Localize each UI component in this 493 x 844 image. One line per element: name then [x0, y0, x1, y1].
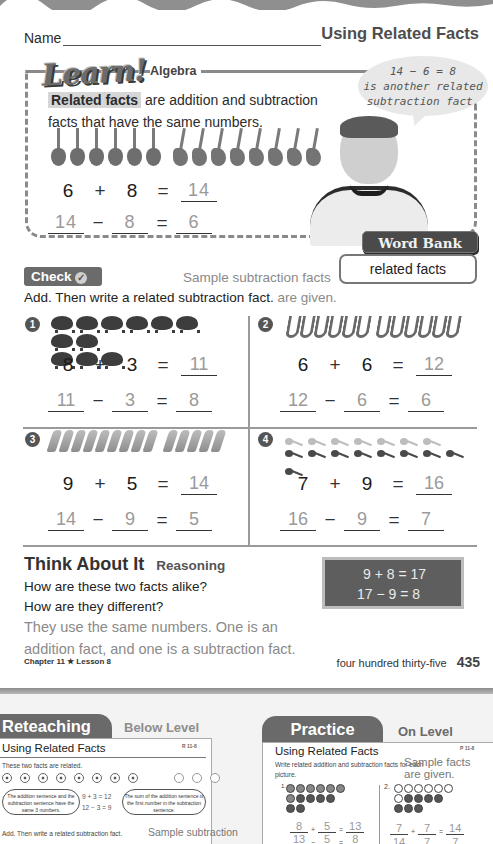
answer-blank[interactable]: 8: [290, 820, 308, 833]
equals-sign: =: [145, 354, 181, 376]
spoon-icon: [377, 450, 396, 458]
minus-sign: −: [84, 212, 112, 234]
answer-blank[interactable]: 6: [408, 390, 444, 412]
cloud-note-left: The addition sentence and the subtractio…: [2, 789, 80, 815]
guitar-icon: [88, 128, 105, 168]
answer-blank[interactable]: 8: [346, 833, 364, 844]
practice-sample-note: Sample facts are given.: [404, 756, 470, 780]
saxophone-icon: [355, 316, 372, 338]
balloon-icon: [128, 773, 138, 783]
answer-blank[interactable]: 7: [418, 822, 436, 835]
answer-blank[interactable]: 13: [346, 820, 364, 833]
answer-blank[interactable]: 14: [181, 473, 217, 495]
answer-blank[interactable]: 7: [418, 836, 436, 844]
learn-addition-equation: 6 + 8 = 14: [55, 180, 217, 202]
term-highlight: Related facts: [48, 92, 141, 108]
counters-picture-1: [286, 784, 352, 814]
spoon-icon: [354, 450, 373, 458]
addend-b: 3: [119, 354, 145, 376]
equals-sign: =: [339, 826, 343, 833]
problem-number-1: 1: [25, 317, 40, 332]
electric-guitar-icon: [191, 128, 208, 168]
balloon-icon: [2, 773, 12, 783]
reteaching-level: Below Level: [124, 720, 199, 735]
answer-blank[interactable]: 7: [446, 836, 464, 844]
paintbrushes-picture: [50, 430, 245, 456]
answer-blank[interactable]: 3: [112, 390, 148, 412]
answer-blank[interactable]: 7: [390, 822, 408, 835]
addend-a: 9: [55, 473, 81, 495]
practice-tab: Practice: [262, 716, 383, 742]
answer-blank[interactable]: 6: [176, 212, 212, 234]
answer-blank[interactable]: 14: [181, 180, 217, 202]
answer-blank[interactable]: 7: [408, 509, 444, 531]
addend-a: 7: [290, 473, 316, 495]
problem-3-subtraction: 14 − 9 = 5: [48, 509, 212, 531]
guitar-icon: [145, 128, 162, 168]
pig-icon: [76, 316, 98, 330]
answer-blank[interactable]: 12: [416, 354, 452, 376]
guitar-icon: [126, 128, 143, 168]
guitar-icon: [50, 128, 67, 168]
addend-a: 8: [55, 354, 81, 376]
answer-blank[interactable]: 9: [112, 509, 148, 531]
reteaching-sample-note: Sample subtraction: [148, 826, 238, 838]
practice-2-addition: 7 + 7 = 14: [390, 822, 464, 835]
balloon-icon: [192, 773, 202, 783]
problem-2-subtraction: 12 − 6 = 6: [280, 390, 444, 412]
word-bank-term: related facts: [339, 254, 477, 284]
answer-blank[interactable]: 13: [290, 833, 308, 844]
answer-blank[interactable]: 5: [176, 509, 212, 531]
addend-b: 5: [119, 473, 145, 495]
answer-blank[interactable]: 14: [48, 212, 84, 234]
page-footer: four hundred thirty-five435: [337, 654, 480, 670]
lesson-title: Using Related Facts: [321, 24, 479, 43]
think-question-1: How are these two facts alike?: [24, 579, 207, 594]
cloud-note-right: The sum of the addition sentence is the …: [122, 789, 206, 815]
checkmark-icon: ✓: [75, 272, 87, 284]
answer-blank[interactable]: 5: [318, 833, 336, 844]
balloon-icon: [174, 773, 184, 783]
guitar-icon: [107, 128, 124, 168]
answer-blank[interactable]: 8: [112, 212, 148, 234]
practice-2-subtraction: 14 − 7 = 7: [390, 836, 464, 844]
pig-icon: [101, 316, 123, 330]
equals-sign: =: [145, 473, 181, 495]
answer-blank[interactable]: 9: [344, 509, 380, 531]
check-instructions: Add. Then write a related subtraction fa…: [24, 290, 337, 305]
check-text: Check: [31, 269, 72, 284]
problem-number-4: 4: [258, 432, 273, 447]
answer-blank[interactable]: 11: [181, 354, 217, 376]
electric-guitar-icon: [229, 128, 246, 168]
problem-1-subtraction: 11 − 3 = 8: [48, 390, 212, 412]
answer-blank[interactable]: 16: [416, 473, 452, 495]
answer-blank[interactable]: 14: [446, 822, 464, 835]
pig-icon: [76, 334, 98, 348]
answer-blank[interactable]: 5: [318, 820, 336, 833]
name-line[interactable]: [63, 32, 321, 46]
practice-code: P 11-8: [460, 745, 474, 751]
think-question-2: How are they different?: [24, 599, 163, 614]
answer-blank[interactable]: 16: [280, 509, 316, 531]
plus-sign: +: [81, 180, 119, 202]
name-field[interactable]: Name: [24, 30, 321, 46]
practice-problem-2-number: 2.: [384, 783, 390, 790]
check-label: Check✓: [24, 267, 102, 286]
answer-blank[interactable]: 12: [280, 390, 316, 412]
pig-icon: [51, 334, 73, 348]
answer-blank[interactable]: 14: [390, 836, 408, 844]
answer-blank[interactable]: 11: [48, 390, 84, 412]
spoon-icon: [446, 450, 465, 458]
minus-sign: −: [84, 390, 112, 412]
practice-level: On Level: [398, 724, 453, 739]
grid-divider-bottom: [23, 545, 477, 547]
answer-blank[interactable]: 14: [48, 509, 84, 531]
chalkboard: 9 + 8 = 17 17 − 9 = 8: [322, 557, 464, 609]
answer-blank[interactable]: 8: [176, 390, 212, 412]
pig-icon: [176, 316, 198, 330]
page-number: 435: [457, 654, 480, 670]
equals-sign: =: [380, 473, 416, 495]
spoon-icon: [308, 450, 327, 458]
instruction-text: Add. Then write a related subtraction fa…: [24, 290, 274, 305]
answer-blank[interactable]: 6: [344, 390, 380, 412]
